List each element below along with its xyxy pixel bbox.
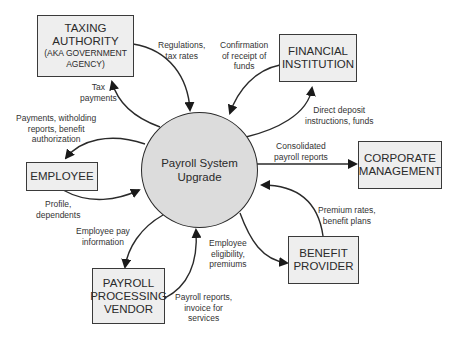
label-line: payments (80, 93, 117, 104)
label-line: dependents (36, 210, 80, 221)
flow-label-eligibility: Employee eligibility, premiums (209, 238, 247, 270)
entity-label: MANAGEMENT (359, 165, 441, 178)
label-line: authorization (16, 134, 96, 145)
label-line: of receipt of (220, 51, 268, 62)
label-line: premiums (209, 259, 247, 270)
flow-payroll-reports (165, 230, 196, 298)
entity-label: VENDOR (104, 303, 153, 316)
label-line: services (175, 313, 232, 324)
label-line: Payments, witholding (16, 113, 96, 124)
entity-financial-institution: FINANCIAL INSTITUTION (279, 34, 357, 82)
label-line: eligibility, (209, 249, 247, 260)
label-line: Confirmation (220, 40, 268, 51)
entity-sublabel: (AKA GOVERNMENT (44, 48, 127, 59)
entity-label: BENEFIT (299, 247, 348, 260)
process-label-line1: Payroll System (161, 156, 238, 170)
flow-label-direct-deposit: Direct deposit instructions, funds (305, 105, 374, 126)
flow-premium-rates (262, 185, 323, 236)
label-line: Consolidated (274, 141, 328, 152)
entity-corporate-management: CORPORATE MANAGEMENT (358, 141, 442, 189)
label-line: Employee (209, 238, 247, 249)
flow-label-profile: Profile, dependents (36, 199, 80, 220)
label-line: Premium rates, (318, 205, 376, 216)
entity-employee: EMPLOYEE (26, 162, 98, 191)
entity-taxing-authority: TAXING AUTHORITY (AKA GOVERNMENT AGENCY) (37, 15, 134, 77)
entity-label: AUTHORITY (52, 35, 118, 48)
entity-label: CORPORATE (364, 152, 436, 165)
label-line: funds (220, 61, 268, 72)
flow-label-payroll-reports: Payroll reports, invoice for services (175, 292, 232, 324)
entity-label: PAYROLL (103, 277, 154, 290)
label-line: information (76, 237, 130, 248)
entity-sublabel: AGENCY) (66, 59, 105, 70)
label-line: Tax (80, 82, 117, 93)
label-line: Profile, (36, 199, 80, 210)
entity-label: TAXING (65, 22, 107, 35)
entity-label: PROCESSING (90, 290, 167, 303)
flow-label-confirmation: Confirmation of receipt of funds (220, 40, 268, 72)
flow-label-regulations: Regulations, tax rates (158, 40, 205, 61)
label-line: Regulations, (158, 40, 205, 51)
flow-label-tax-payments: Tax payments (80, 82, 117, 103)
label-line: Direct deposit (305, 105, 374, 116)
process-label-line2: Upgrade (161, 170, 238, 184)
flow-label-consolidated: Consolidated payroll reports (274, 141, 328, 162)
label-line: Employee pay (76, 226, 130, 237)
entity-label: EMPLOYEE (30, 170, 93, 183)
flow-employee-pay-info (125, 215, 163, 267)
label-line: payroll reports (274, 152, 328, 163)
entity-benefit-provider: BENEFIT PROVIDER (288, 236, 359, 284)
label-line: reports, benefit (16, 124, 96, 135)
label-line: tax rates (158, 51, 205, 62)
entity-label: PROVIDER (293, 260, 353, 273)
flow-eligibility (240, 213, 287, 263)
entity-label: INSTITUTION (282, 58, 354, 71)
flow-direct-deposit (246, 88, 312, 137)
entity-payroll-processing-vendor: PAYROLL PROCESSING VENDOR (92, 268, 165, 324)
label-line: invoice for (175, 303, 232, 314)
process-payroll-system-upgrade: Payroll System Upgrade (141, 112, 258, 228)
flow-tax-payments (112, 82, 160, 127)
entity-label: FINANCIAL (288, 45, 348, 58)
label-line: Payroll reports, (175, 292, 232, 303)
flow-label-payments-employee: Payments, witholding reports, benefit au… (16, 113, 96, 145)
label-line: instructions, funds (305, 116, 374, 127)
flow-label-employee-pay-info: Employee pay information (76, 226, 130, 247)
flow-label-premium-rates: Premium rates, benefit plans (318, 205, 376, 226)
flow-confirmation (230, 65, 280, 113)
label-line: benefit plans (318, 216, 376, 227)
